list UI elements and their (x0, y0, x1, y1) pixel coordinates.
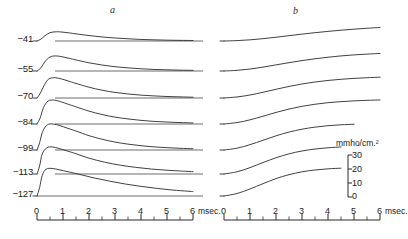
axis-b-tick-2: 2 (273, 206, 278, 216)
scale-tick-20: 20 (352, 164, 362, 174)
axis-b-tick-4: 4 (325, 206, 330, 216)
axis-a-tick-6: 6 (190, 206, 195, 216)
axis-a-tick-0: 0 (34, 206, 39, 216)
trace-a-0 (37, 32, 193, 41)
scale-tick-0: 0 (352, 191, 357, 201)
axis-b-tick-6: 6 (377, 206, 382, 216)
trace-a-4 (37, 124, 193, 150)
axis-b-tick-5: 5 (351, 206, 356, 216)
scale-title: mmho/cm.² (336, 138, 379, 148)
scale-tick-10: 10 (352, 178, 362, 188)
trace-b-5 (224, 147, 341, 174)
axis-a-tick-1: 1 (60, 206, 65, 216)
trace-a-2 (37, 78, 193, 98)
trace-b-4 (224, 124, 354, 150)
trace-b-1 (224, 53, 380, 71)
scale-tick-30: 30 (352, 150, 362, 160)
trace-b-3 (224, 100, 380, 124)
axis-b-tick-3: 3 (299, 206, 304, 216)
axis-a-tick-5: 5 (164, 206, 169, 216)
axis-a-tick-2: 2 (86, 206, 91, 216)
axis-a-tick-3: 3 (112, 206, 117, 216)
trace-b-2 (224, 77, 380, 98)
trace-b-0 (224, 27, 380, 41)
axis-b-tick-0: 0 (221, 206, 226, 216)
axis-b-tick-1: 1 (247, 206, 252, 216)
trace-b-6 (224, 168, 341, 196)
axis-b-unit: msec. (385, 206, 408, 216)
trace-a-1 (37, 56, 193, 71)
trace-a-6 (37, 168, 193, 196)
axis-a-tick-4: 4 (138, 206, 143, 216)
axis-a-unit: msec. (198, 206, 221, 216)
trace-a-3 (37, 100, 193, 124)
